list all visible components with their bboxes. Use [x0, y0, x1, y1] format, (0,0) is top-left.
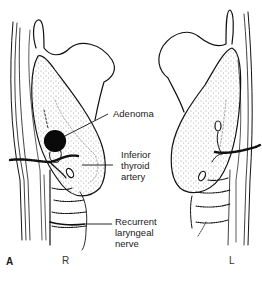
inferior-thyroid-artery-label: Inferior thyroid artery [121, 149, 151, 182]
side-label-left: L [229, 255, 235, 266]
panel-letter: A [6, 256, 13, 267]
left-side-view [159, 10, 260, 245]
right-side-view [10, 20, 114, 250]
recurrent-laryngeal-nerve-label: Recurrent laryngeal nerve [115, 216, 157, 249]
adenoma-label: Adenoma [113, 108, 154, 119]
side-label-right: R [62, 255, 69, 266]
adenoma-nodule [45, 131, 66, 152]
